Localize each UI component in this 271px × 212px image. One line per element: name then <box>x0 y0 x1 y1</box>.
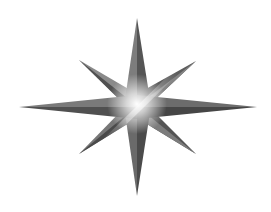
canvas <box>0 0 271 212</box>
compass-star-icon <box>0 0 271 212</box>
